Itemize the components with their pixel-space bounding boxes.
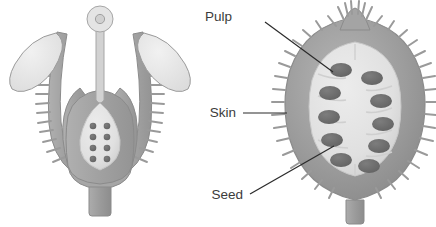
seed [319, 86, 341, 100]
seed [330, 153, 352, 167]
ovule [104, 156, 111, 163]
seed-label: Seed [211, 187, 243, 202]
ovule [90, 123, 97, 130]
flower-stalk [89, 185, 111, 216]
seed [368, 139, 390, 153]
seed [358, 159, 380, 173]
ovule [104, 145, 111, 152]
ovule [90, 156, 97, 163]
seed [318, 110, 340, 124]
seed [361, 71, 383, 85]
ovule [90, 145, 97, 152]
seed [370, 94, 392, 108]
ovule [90, 134, 97, 141]
ovule [104, 134, 111, 141]
ovule [104, 123, 111, 130]
fruit-stalk [346, 200, 364, 224]
seed [330, 63, 352, 77]
style [96, 30, 104, 103]
stigma-opening [95, 14, 104, 23]
botanical-diagram-figure: Pulp Skin Seed [0, 0, 436, 227]
seed [372, 117, 394, 131]
skin-label: Skin [210, 105, 236, 120]
seed [321, 133, 343, 147]
pulp-label: Pulp [205, 9, 232, 24]
